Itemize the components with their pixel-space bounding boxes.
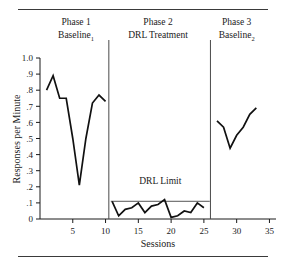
y-tick-label: .9 [26, 69, 33, 79]
x-tick-label: 30 [232, 226, 242, 236]
phase-divider-lines [109, 40, 211, 219]
y-axis-title: Responses per Minute [11, 94, 22, 183]
x-axis-tick-labels: 5101520253035 [71, 226, 275, 236]
y-tick-label: .4 [26, 150, 33, 160]
x-tick-label: 35 [265, 226, 275, 236]
phase-3-title: Phase 3 [222, 17, 252, 27]
phase-1-condition: Baseline1 [58, 30, 94, 42]
phase-3-series [217, 108, 256, 148]
y-axis-ticks [36, 58, 40, 219]
x-tick-label: 20 [167, 226, 177, 236]
figure-container: 0.1.2.3.4.5.6.7.8.91.0 5101520253035 DRL… [0, 0, 285, 266]
phase-2-condition: DRL Treatment [128, 30, 188, 40]
phase-labels: Phase 1Baseline1Phase 2DRL TreatmentPhas… [58, 17, 255, 42]
y-tick-label: .6 [26, 118, 33, 128]
phase-1-condition-subscript: 1 [91, 35, 94, 42]
x-axis-ticks [73, 219, 270, 223]
y-tick-label: .1 [26, 198, 33, 208]
data-series-group [47, 76, 257, 218]
y-tick-label: .8 [26, 85, 33, 95]
phase-1-title: Phase 1 [61, 17, 91, 27]
phase-2-series [112, 200, 204, 218]
phase-1-series [47, 76, 106, 185]
y-axis-tick-labels: 0.1.2.3.4.5.6.7.8.91.0 [22, 53, 34, 224]
x-tick-label: 15 [134, 226, 144, 236]
x-tick-label: 5 [71, 226, 76, 236]
phase-3-condition-subscript: 2 [251, 35, 254, 42]
x-tick-label: 10 [101, 226, 111, 236]
y-tick-label: 1.0 [22, 53, 34, 63]
chart-annotations: DRL Limit [111, 176, 210, 202]
phase-3-condition: Baseline2 [219, 30, 255, 42]
y-tick-label: .5 [26, 134, 33, 144]
chart-canvas: 0.1.2.3.4.5.6.7.8.91.0 5101520253035 DRL… [0, 0, 285, 266]
phase-2-title: Phase 2 [143, 17, 173, 27]
x-axis-title: Sessions [141, 238, 176, 249]
y-tick-label: .3 [26, 166, 33, 176]
x-tick-label: 25 [199, 226, 209, 236]
y-tick-label: 0 [29, 214, 34, 224]
drl-limit-label: DRL Limit [139, 176, 181, 186]
y-tick-label: .7 [26, 102, 33, 112]
y-tick-label: .2 [26, 182, 33, 192]
